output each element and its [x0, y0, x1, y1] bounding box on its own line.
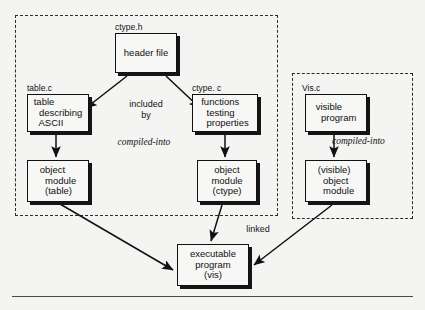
node-visible-program[interactable]: visible program: [305, 94, 367, 132]
node-table-describing-ascii[interactable]: table describing ASCII: [27, 94, 89, 132]
caption-table-c: table.c: [27, 84, 52, 93]
node-object-module-table-label: object module (table): [36, 165, 80, 197]
node-executable-program-vis-label: executable program (vis): [186, 249, 240, 281]
edge-label-compiled-into-left: compiled-into: [94, 137, 194, 148]
diagram-canvas: ctype.h table.c ctype. c Vis.c header fi…: [0, 0, 425, 310]
node-visible-program-label: visible program: [312, 102, 361, 124]
node-header-file-label: header file: [120, 48, 172, 59]
node-functions-testing-properties[interactable]: functions testing properties: [192, 94, 258, 132]
edge-label-compiled-into-right: compiled-into: [332, 136, 422, 147]
node-executable-program-vis[interactable]: executable program (vis): [177, 244, 249, 286]
node-visible-object-module-label: (visible) object module: [314, 165, 358, 197]
caption-ctype-c: ctype. c: [192, 84, 221, 93]
node-object-module-ctype-label: object module (ctype): [207, 165, 246, 197]
node-object-module-table[interactable]: object module (table): [27, 160, 89, 202]
caption-ctype-h: ctype.h: [115, 23, 142, 32]
node-header-file[interactable]: header file: [115, 33, 177, 73]
node-table-describing-ascii-label: table describing ASCII: [30, 97, 87, 129]
edge-label-linked: linked: [238, 224, 278, 235]
bottom-rule: [12, 296, 413, 297]
caption-vis-c: Vis.c: [302, 84, 320, 93]
node-visible-object-module[interactable]: (visible) object module: [305, 160, 367, 202]
edge-label-included-by: included by: [116, 99, 176, 120]
node-object-module-ctype[interactable]: object module (ctype): [197, 160, 257, 202]
node-functions-testing-properties-label: functions testing properties: [197, 97, 253, 129]
